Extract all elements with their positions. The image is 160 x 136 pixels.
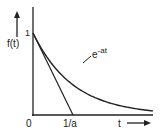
y-axis-label: f(t) [7, 38, 19, 49]
origin-label: 0 [26, 118, 32, 129]
curve-label-exponent: -at [98, 46, 108, 55]
y-direction-arrow-icon [14, 11, 20, 37]
exponential-decay-diagram: f(t) 1 0 1/a t e-at [0, 0, 160, 136]
x-direction-arrow-icon [127, 120, 151, 126]
curve-label: e-at [92, 46, 108, 60]
y-tick-label: 1 [25, 28, 30, 38]
exponential-curve [33, 33, 153, 111]
x-tick-label: 1/a [63, 118, 77, 129]
curve-label-leader [83, 56, 91, 63]
x-axis-label: t [118, 118, 121, 129]
